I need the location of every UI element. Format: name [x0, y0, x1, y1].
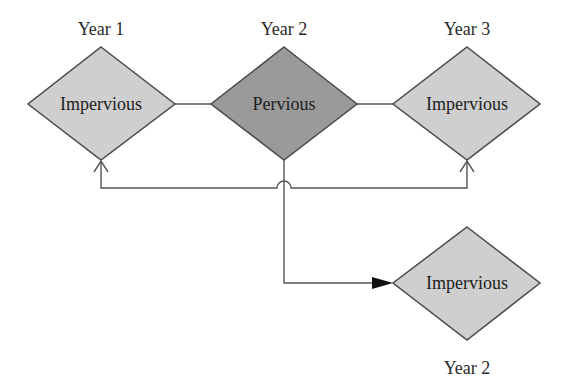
node-n4: Impervious Year 2 [393, 227, 540, 378]
node-label: Pervious [253, 94, 316, 114]
node-label: Impervious [60, 94, 142, 114]
node-label: Impervious [426, 94, 508, 114]
node-n1: Impervious Year 1 [28, 19, 175, 160]
node-n3: Impervious Year 3 [393, 19, 540, 160]
year-label: Year 2 [261, 19, 308, 39]
filled-arrowhead-icon [372, 277, 393, 289]
year-label: Year 2 [444, 358, 491, 378]
branch-connector [284, 160, 378, 283]
land-cover-transition-diagram: Impervious Year 1 Pervious Year 2 Imperv… [0, 0, 571, 391]
year-label: Year 1 [78, 19, 125, 39]
year-label: Year 3 [444, 19, 491, 39]
node-n2: Pervious Year 2 [211, 19, 357, 160]
node-label: Impervious [426, 273, 508, 293]
